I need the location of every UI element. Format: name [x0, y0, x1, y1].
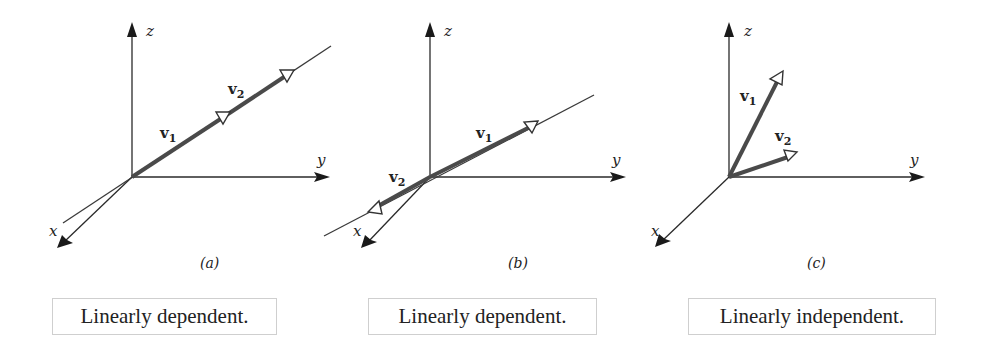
v2-label: v2	[388, 168, 405, 189]
caption-c: (c)	[807, 255, 826, 271]
y-axis-label: y	[316, 151, 326, 169]
caption-a: (a)	[200, 255, 219, 271]
x-axis-label: x	[49, 222, 58, 240]
z-axis-label: z	[443, 22, 452, 40]
v2-arrowhead-icon	[368, 201, 382, 214]
caption-b: (b)	[508, 255, 528, 271]
x-axis-label: x	[353, 222, 362, 240]
z-axis-arrowhead-icon	[127, 22, 137, 37]
v1-arrowhead-icon	[770, 71, 783, 85]
vector-v1	[132, 118, 222, 177]
z-axis-label: z	[145, 22, 154, 40]
v2-label: v2	[227, 80, 244, 101]
panel-b: z y x v1 v2 (b)	[324, 22, 626, 271]
z-axis-arrowhead-icon	[425, 22, 435, 37]
x-axis-arrowhead-icon	[57, 235, 73, 248]
x-axis-label: x	[651, 222, 660, 240]
panel-a: z y x v1 v2 (a)	[49, 22, 331, 271]
v1-label: v1	[159, 124, 176, 145]
v1-label: v1	[739, 87, 756, 108]
x-axis-arrowhead-icon	[361, 235, 377, 248]
span-line	[324, 95, 594, 236]
x-axis	[64, 177, 132, 242]
y-axis-label: y	[611, 151, 621, 169]
z-axis-arrowhead-icon	[724, 22, 734, 37]
status-box-b: Linearly dependent.	[368, 298, 597, 335]
v2-label: v2	[774, 127, 791, 148]
y-axis-label: y	[909, 151, 919, 169]
z-axis-label: z	[743, 22, 752, 40]
status-box-a: Linearly dependent.	[52, 298, 277, 335]
panel-c: z y x v1 v2 (c)	[651, 22, 925, 271]
x-axis	[661, 177, 729, 242]
status-box-c: Linearly independent.	[688, 298, 936, 335]
v1-label: v1	[475, 124, 492, 145]
